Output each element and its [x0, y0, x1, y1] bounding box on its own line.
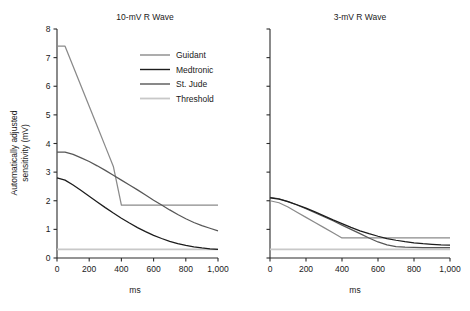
legend: GuidantMedtronicSt. JudeThreshold	[140, 50, 214, 103]
y-tick-label: 6	[46, 81, 51, 91]
y-tick-label: 1	[46, 224, 51, 234]
x-tick-label: 0	[268, 264, 273, 274]
x-tick-label: 1,000	[207, 264, 229, 274]
legend-label-guidant: Guidant	[176, 50, 206, 60]
x-tick-label: 800	[179, 264, 193, 274]
y-tick-label: 2	[46, 196, 51, 206]
x-tick-label: 200	[82, 264, 96, 274]
legend-label-st-jude: St. Jude	[176, 79, 207, 89]
y-tick-label: 0	[46, 253, 51, 263]
y-tick-label: 7	[46, 53, 51, 63]
legend-label-medtronic: Medtronic	[176, 65, 214, 75]
y-tick-label: 4	[46, 139, 51, 149]
figure-root: Automatically adjusted sensitivity (mV) …	[0, 0, 470, 311]
x-tick-label: 200	[299, 264, 313, 274]
series-line-st-jude	[57, 152, 218, 231]
y-tick-label: 5	[46, 110, 51, 120]
legend-label-threshold: Threshold	[176, 94, 214, 104]
plot-canvas: 01234567802004006008001,0000200400600800…	[0, 0, 470, 311]
x-tick-label: 600	[371, 264, 385, 274]
y-tick-label: 3	[46, 167, 51, 177]
panel-right: 02004006008001,000	[267, 29, 461, 274]
panel-left: 01234567802004006008001,000	[46, 24, 229, 274]
series-line-medtronic	[57, 178, 218, 250]
x-tick-label: 400	[335, 264, 349, 274]
x-tick-label: 400	[114, 264, 128, 274]
x-tick-label: 600	[147, 264, 161, 274]
series-line-guidant	[270, 201, 450, 238]
x-tick-label: 800	[407, 264, 421, 274]
x-tick-label: 0	[55, 264, 60, 274]
x-tick-label: 1,000	[439, 264, 461, 274]
y-tick-label: 8	[46, 24, 51, 34]
